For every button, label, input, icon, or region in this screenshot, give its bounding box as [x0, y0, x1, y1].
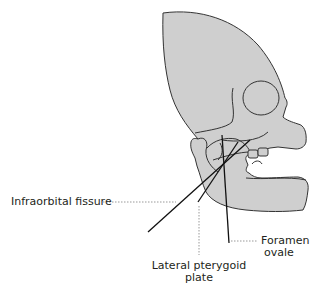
lower-tooth: [252, 161, 262, 164]
label-infraorbital-fissure: Infraorbital fissure: [11, 196, 112, 208]
skull-outline: [163, 12, 308, 212]
tooth: [258, 148, 268, 156]
label-foramen-ovale: Foramen ovale: [261, 235, 309, 259]
label-lateral-pterygoid-plate: Lateral pterygoid plate: [149, 260, 249, 284]
label-foramen-line2: ovale: [261, 247, 309, 259]
tooth: [248, 150, 258, 158]
label-pterygoid-line2: plate: [149, 272, 249, 284]
